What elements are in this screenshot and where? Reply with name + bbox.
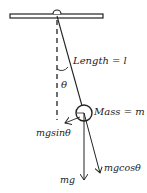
angle-label: θ [61,79,67,90]
pendulum-diagram: Length = l θ Mass = m mgsinθ mg mgcosθ [0,0,147,193]
radial-force-label: mgcosθ [104,162,141,173]
weight-label: mg [60,174,75,185]
ceiling-support [10,10,103,18]
tangential-force-label: mgsinθ [36,127,71,138]
angle-arc [57,67,68,71]
mass-label: Mass = m [93,106,145,117]
ceiling-bar [10,14,103,18]
length-label: Length = l [72,55,127,66]
radial-force-arrow [84,113,100,173]
tangential-force-arrow [65,117,80,123]
pivot-hinge [53,10,61,14]
